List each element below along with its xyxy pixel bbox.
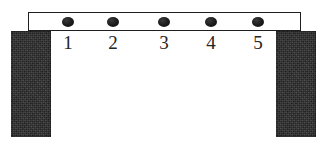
- beam-marker-dot-5: [252, 17, 264, 27]
- beam-marker-dot-2: [107, 17, 119, 27]
- beam-position-label-5: 5: [253, 33, 263, 52]
- beam-position-label-3: 3: [159, 33, 169, 52]
- beam-position-label-1: 1: [63, 33, 73, 52]
- beam-diagram: 12345: [0, 0, 326, 145]
- beam-position-label-2: 2: [108, 33, 118, 52]
- beam-marker-dot-1: [62, 17, 74, 27]
- left-support-block: [11, 31, 51, 137]
- right-support-block: [276, 31, 316, 137]
- beam-marker-dot-4: [205, 17, 217, 27]
- beam-marker-dot-3: [158, 17, 170, 27]
- beam-position-label-4: 4: [206, 33, 216, 52]
